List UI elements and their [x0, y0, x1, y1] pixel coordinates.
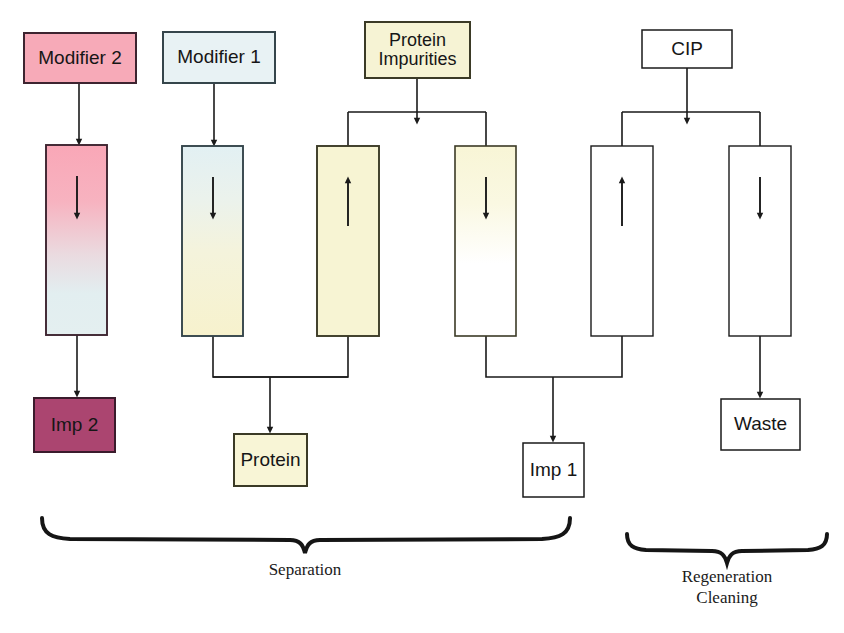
column-4-body: [455, 146, 516, 336]
cip-box[interactable]: [642, 30, 732, 68]
column-6-body: [729, 146, 791, 336]
modifier-2-box[interactable]: [24, 33, 136, 83]
separation-brace-label: Separation: [205, 560, 405, 581]
protein-impurities-box[interactable]: [365, 22, 470, 78]
product-box-layer: [34, 398, 800, 497]
brace-layer: [42, 518, 827, 563]
imp-2-box[interactable]: [34, 398, 115, 452]
brace-separation-icon: [42, 518, 570, 553]
process-flow-diagram: Modifier 2 Modifier 1 Protein Impurities…: [0, 0, 844, 633]
connector-layer: [77, 68, 760, 439]
regeneration-cleaning-brace-label: Regeneration Cleaning: [637, 567, 817, 608]
column-5-body: [591, 146, 653, 336]
connector-column2-column3-merge: [213, 336, 348, 377]
column-3-body: [317, 146, 379, 336]
waste-box[interactable]: [721, 399, 800, 450]
column-2-body: [182, 146, 243, 336]
connector-cip-split: [622, 112, 760, 146]
column-1-body: [46, 145, 107, 335]
feed-box-layer: [24, 22, 732, 83]
brace-regeneration-icon: [627, 534, 827, 563]
connector-column4-column5-merge: [486, 336, 622, 377]
modifier-1-box[interactable]: [163, 32, 275, 83]
diagram-canvas: [0, 0, 844, 633]
protein-box[interactable]: [234, 434, 307, 486]
column-layer: [46, 145, 791, 336]
flow-arrow-layer: [77, 176, 760, 226]
imp-1-box[interactable]: [523, 443, 584, 497]
